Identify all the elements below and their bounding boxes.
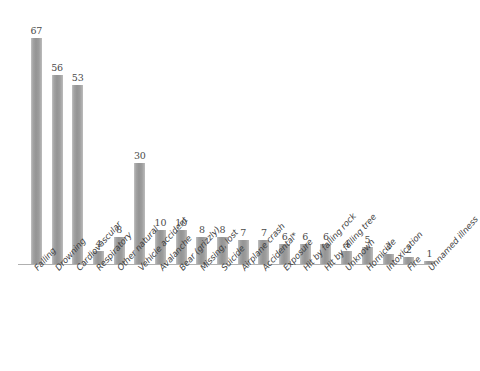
bar-group[interactable]: 6	[295, 14, 316, 264]
bar-group[interactable]: 8	[192, 14, 213, 264]
bar-group[interactable]: 30	[129, 14, 150, 264]
bar-group[interactable]: 7	[254, 14, 275, 264]
bar-rect[interactable]	[52, 75, 63, 264]
bar-group[interactable]: 6	[316, 14, 337, 264]
bar-value-label: 67	[30, 26, 42, 36]
x-axis-labels: FallingDrowningCardiovascularRespiratory…	[26, 266, 440, 370]
bar-group[interactable]: 2	[398, 14, 419, 264]
bar-group[interactable]: 7	[233, 14, 254, 264]
bar-group[interactable]: 4	[88, 14, 109, 264]
bar-group[interactable]: 67	[26, 14, 47, 264]
bar-group[interactable]: 56	[47, 14, 68, 264]
bars-container: 67565348301010887766645321	[26, 14, 440, 264]
bar-value-label: 1	[426, 249, 432, 259]
bar-group[interactable]: 53	[67, 14, 88, 264]
bar-rect[interactable]	[31, 38, 42, 264]
bar-value-label: 53	[72, 73, 84, 83]
bar-value-label: 30	[134, 151, 146, 161]
bar-value-label: 8	[199, 225, 205, 235]
plot-area: 67565348301010887766645321	[26, 14, 440, 264]
bar-value-label: 56	[51, 63, 63, 73]
bar-group[interactable]: 3	[378, 14, 399, 264]
bar-group[interactable]: 1	[419, 14, 440, 264]
bar-value-label: 7	[240, 228, 246, 238]
